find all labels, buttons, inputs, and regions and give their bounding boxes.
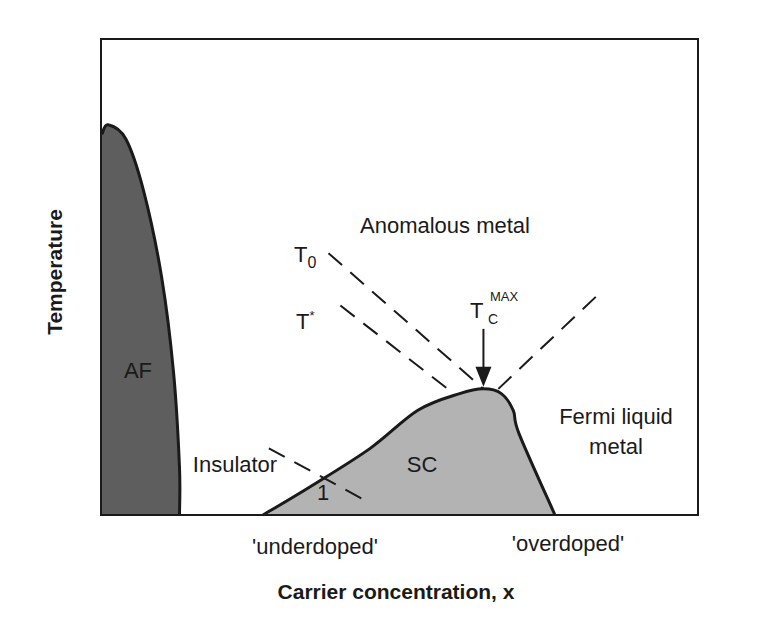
tstar-superscript: * — [309, 308, 314, 323]
dashed-line-t0 — [328, 253, 483, 389]
dashed-line-fermi-boundary — [498, 296, 596, 389]
t0-subscript: 0 — [307, 254, 316, 271]
annotation-tc-max: T — [470, 298, 483, 323]
y-axis-label: Temperature — [43, 209, 66, 335]
tc-subscript: C — [488, 311, 498, 327]
tc-max-arrow-head — [475, 367, 491, 387]
tstar-main: T — [296, 309, 309, 334]
annotation-fermi-metal: metal — [589, 434, 643, 459]
annotation-insulator: Insulator — [193, 452, 277, 477]
tc-main: T — [470, 298, 483, 323]
x-axis-label: Carrier concentration, x — [278, 580, 515, 603]
line-label-tstar: T* — [296, 308, 315, 334]
dashed-line-t-star — [340, 306, 447, 389]
annotation-fermi-liquid: Fermi liquid — [559, 404, 673, 429]
line-label-1: 1 — [317, 480, 329, 505]
annotation-anomalous-metal: Anomalous metal — [360, 213, 530, 238]
t0-main: T — [294, 242, 307, 267]
region-label-af: AF — [124, 358, 152, 383]
x-tick-label-underdoped: 'underdoped' — [252, 534, 378, 559]
tc-superscript: MAX — [490, 289, 519, 304]
region-label-sc: SC — [407, 452, 438, 477]
x-tick-label-overdoped: 'overdoped' — [512, 531, 624, 556]
line-label-t0: T0 — [294, 242, 316, 271]
phase-diagram: Temperature Carrier concentration, x 'un… — [0, 0, 764, 622]
